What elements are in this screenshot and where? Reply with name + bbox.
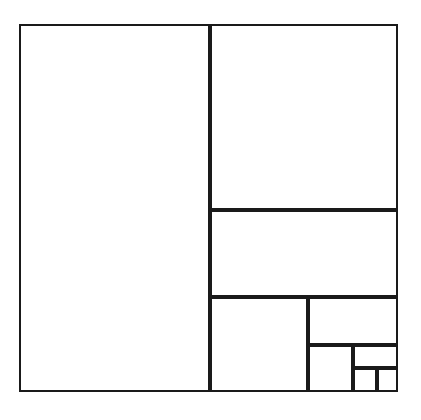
cell-top-right [211,25,397,209]
cell-tiny-right [378,369,397,391]
cell-lower-left-inner [211,298,307,391]
cells-group [20,25,397,391]
cell-tiny-left [354,369,376,391]
cell-middle-right-band [211,211,397,296]
cell-small-wide [354,346,397,367]
squared-rectangle-diagram [0,0,421,420]
cell-lower-mid [309,346,352,391]
cell-large-left [20,25,209,391]
figure-canvas [0,0,421,420]
cell-lower-right-upper [309,298,397,344]
